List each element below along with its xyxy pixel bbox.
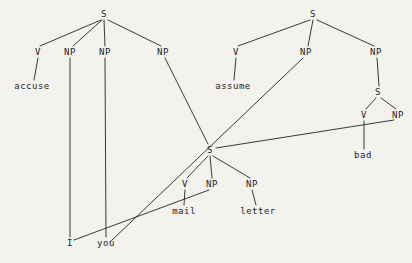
word-bad: bad (354, 151, 372, 160)
tree-edge-np_right_2-s_inner (377, 58, 379, 86)
tree-edge-s_right-np_right_1 (308, 20, 313, 46)
edge-group (34, 20, 396, 242)
tree-edge-v_left-accuse (34, 58, 38, 80)
word-you: you (97, 239, 115, 248)
tree-edge-np_left_2-you (105, 58, 106, 237)
node-v-inner: V (361, 111, 367, 120)
node-s-inner: S (375, 88, 381, 97)
word-i: I (67, 239, 73, 248)
node-s-center: S (207, 146, 213, 155)
word-mail: mail (172, 207, 196, 216)
word-letter: letter (240, 207, 276, 216)
tree-edge-v_right-assume (234, 58, 236, 80)
tree-edge-s_left-v_left (40, 20, 101, 46)
node-s-left: S (101, 10, 107, 19)
tree-edge-s_center-np_center_2 (213, 156, 250, 178)
tree-edge-s_left-np_left_2 (104, 20, 105, 46)
word-accuse: accuse (14, 82, 50, 91)
tree-edge-s_center-v_center (187, 156, 208, 178)
node-np-inner: NP (392, 111, 404, 120)
tree-edge-s_left-np_left_3 (108, 20, 161, 46)
node-np-right-1: NP (300, 48, 312, 57)
tree-edge-s_right-np_right_2 (317, 20, 374, 46)
syntax-tree-figure: S V NP NP NP accuse S V NP NP assume S V… (0, 0, 412, 263)
tree-edge-s_right-v_right (238, 20, 310, 46)
node-np-left-2: NP (99, 48, 111, 57)
tree-edges-canvas (0, 0, 412, 263)
tree-edge-np_left_3-s_center (165, 58, 208, 144)
node-np-right-2: NP (370, 48, 382, 57)
tree-edge-np_center_2-letter (252, 190, 256, 205)
tree-edge-np_inner-s_center (216, 120, 394, 148)
node-v-right: V (233, 48, 239, 57)
tree-edge-v_center-mail (184, 190, 185, 205)
tree-edge-s_left-np_left_1 (73, 20, 102, 46)
node-s-right: S (310, 10, 316, 19)
word-assume: assume (215, 82, 251, 91)
tree-edge-s_inner-v_inner (366, 98, 376, 109)
node-v-center: V (182, 180, 188, 189)
node-np-center-1: NP (206, 180, 218, 189)
tree-edge-s_center-np_center_1 (210, 156, 212, 178)
node-v-left: V (35, 48, 41, 57)
node-np-left-1: NP (64, 48, 76, 57)
node-np-left-3: NP (157, 48, 169, 57)
tree-edge-s_inner-np_inner (381, 98, 396, 109)
node-np-center-2: NP (246, 180, 258, 189)
